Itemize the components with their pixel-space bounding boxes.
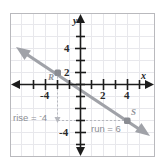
x-tick-label-4: 4: [124, 90, 130, 101]
rise-annotation: rise = -4: [13, 113, 47, 123]
x-tick-label--4: -4: [40, 90, 49, 101]
point-S-marker: [124, 118, 131, 125]
point-label-S: S: [131, 108, 136, 117]
x-axis-arrow-left: [11, 80, 20, 89]
x-tick-label-2: 2: [100, 90, 106, 101]
rise-annotation-text: rise =: [13, 112, 39, 123]
line-arrow-lower-right: [135, 123, 150, 136]
y-axis-arrow-down: [76, 147, 85, 156]
rise-annotation-value: 4: [42, 112, 47, 123]
line-graph-figure: y x 4 2 -4 -4 2 4 R S rise = -4 run = 6: [0, 0, 165, 166]
y-tick-label-2: 2: [64, 67, 70, 78]
plot-frame: y x 4 2 -4 -4 2 4 R S rise = -4 run = 6: [10, 13, 155, 157]
y-axis: [75, 20, 86, 151]
run-annotation: run = 6: [91, 124, 121, 134]
y-tick-label-4: 4: [64, 43, 70, 54]
y-axis-label: y: [73, 16, 77, 26]
x-axis-label: x: [141, 71, 146, 81]
coordinate-plane-svg: [11, 14, 154, 156]
x-axis-arrow-right: [145, 80, 154, 89]
point-label-R: R: [48, 73, 54, 82]
point-R-marker: [55, 70, 62, 77]
y-tick-label--4: -4: [59, 127, 68, 138]
